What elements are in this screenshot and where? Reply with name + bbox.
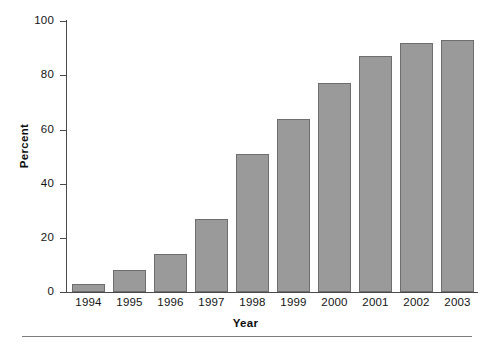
x-tick-label: 1995 <box>109 297 150 309</box>
y-tick-label: 40 <box>41 178 54 190</box>
x-axis-tick-labels: 1994199519961997199819992000200120022003 <box>68 297 478 315</box>
y-tick-mark <box>60 21 66 22</box>
x-tick-label: 1996 <box>150 297 191 309</box>
y-tick-label: 100 <box>34 15 54 27</box>
x-tick-label: 1998 <box>232 297 273 309</box>
footer-divider <box>22 336 472 337</box>
bar <box>359 56 392 292</box>
x-tick-label: 2002 <box>396 297 437 309</box>
y-tick-label: 80 <box>41 69 54 81</box>
y-tick-label: 20 <box>41 232 54 244</box>
x-tick-label: 1999 <box>273 297 314 309</box>
bar-series <box>68 21 478 292</box>
x-tick-label: 2000 <box>314 297 355 309</box>
bar <box>113 270 146 292</box>
bar <box>441 40 474 292</box>
x-tick-label: 2001 <box>355 297 396 309</box>
y-tick-mark <box>60 130 66 131</box>
plot-area <box>68 21 478 292</box>
bar <box>277 119 310 292</box>
y-tick-mark <box>60 75 66 76</box>
bar <box>236 154 269 292</box>
bar <box>195 219 228 292</box>
y-axis-title: Percent <box>18 106 30 186</box>
x-axis-title: Year <box>0 317 491 329</box>
y-tick-label: 0 <box>47 286 54 298</box>
y-tick-mark <box>60 184 66 185</box>
x-axis-line <box>66 292 478 293</box>
bar-chart-figure: 0 20 40 60 80 100 1994199519961997199819… <box>0 0 491 345</box>
bar <box>400 43 433 292</box>
x-tick-label: 2003 <box>437 297 478 309</box>
bar <box>72 284 105 292</box>
bar <box>318 83 351 292</box>
x-tick-label: 1997 <box>191 297 232 309</box>
bar <box>154 254 187 292</box>
y-tick-mark <box>60 238 66 239</box>
y-tick-label: 60 <box>41 124 54 136</box>
x-tick-label: 1994 <box>68 297 109 309</box>
